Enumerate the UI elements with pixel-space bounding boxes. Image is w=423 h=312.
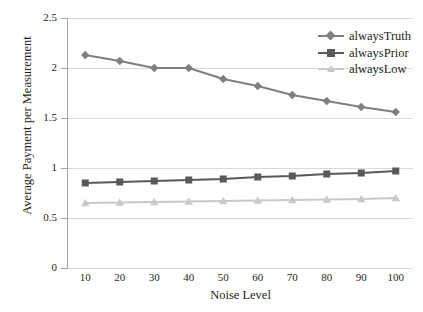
data-point-marker (254, 82, 262, 90)
series-alwaysLow (81, 194, 400, 207)
chart-container: Average Payment per Measurement 00.511.5… (0, 0, 423, 312)
legend-key-icon (318, 47, 344, 59)
y-axis-title: Average Payment per Measurement (20, 11, 35, 241)
y-axis-tick (61, 18, 67, 19)
series-line (85, 198, 396, 203)
data-point-marker (323, 171, 330, 178)
x-axis-title: Noise Level (68, 288, 413, 303)
y-axis-tick-label: 0 (17, 262, 57, 273)
data-point-marker (323, 97, 331, 105)
series-line (85, 171, 396, 183)
legend: alwaysTruthalwaysPrioralwaysLow (318, 28, 411, 78)
data-point-marker (81, 51, 89, 59)
legend-item-alwaysPrior[interactable]: alwaysPrior (318, 45, 411, 62)
y-axis-tick-label: 1.5 (17, 112, 57, 123)
data-point-marker (219, 75, 227, 83)
data-point-marker (150, 64, 158, 72)
y-axis-tick-label: 0.5 (17, 212, 57, 223)
y-axis-tick-label: 2 (17, 62, 57, 73)
legend-label: alwaysPrior (349, 45, 409, 62)
y-axis-tick-label: 2.5 (17, 12, 57, 23)
clipped-header-text (280, 0, 423, 6)
data-point-marker (357, 103, 365, 111)
y-axis-tick (61, 118, 67, 119)
y-axis-tick (61, 218, 67, 219)
x-axis-tick-label: 100 (376, 272, 416, 283)
data-point-marker (289, 173, 296, 180)
data-point-marker (151, 178, 158, 185)
legend-item-alwaysLow[interactable]: alwaysLow (318, 61, 411, 78)
data-point-marker (392, 108, 400, 116)
data-point-marker (82, 180, 89, 187)
y-axis-tick (61, 168, 67, 169)
legend-key-icon (318, 63, 344, 75)
data-point-marker (116, 57, 124, 65)
data-point-marker (185, 177, 192, 184)
legend-marker (326, 31, 336, 41)
data-point-marker (220, 176, 227, 183)
legend-item-alwaysTruth[interactable]: alwaysTruth (318, 28, 411, 45)
legend-marker (327, 49, 335, 57)
data-point-marker (185, 64, 193, 72)
series-alwaysPrior (82, 168, 400, 187)
legend-key-icon (318, 30, 344, 42)
y-axis-tick (61, 68, 67, 69)
data-point-marker (288, 91, 296, 99)
y-axis-tick-label: 1 (17, 162, 57, 173)
data-point-marker (392, 168, 399, 175)
gridline (68, 268, 413, 269)
legend-label: alwaysLow (349, 61, 407, 78)
data-point-marker (254, 174, 261, 181)
data-point-marker (116, 179, 123, 186)
legend-marker (327, 65, 335, 72)
data-point-marker (358, 170, 365, 177)
legend-label: alwaysTruth (349, 28, 411, 45)
y-axis-tick (61, 268, 67, 269)
